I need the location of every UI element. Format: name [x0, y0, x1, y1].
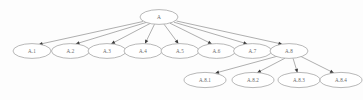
edge-line	[164, 24, 177, 41]
node-label: A.6	[213, 48, 221, 54]
node-label: A.2	[67, 48, 75, 54]
node-A82[interactable]: A.8.2	[232, 72, 274, 87]
edge-line	[146, 24, 154, 41]
diagram-canvas: AA.1A.2A.3A.4A.5A.6A.7A.8A.8.1A.8.2A.8.3…	[0, 0, 363, 100]
node-label: A.8.2	[247, 77, 259, 83]
edge-A8-to-A83	[293, 58, 298, 73]
edge-A-to-A5	[164, 24, 179, 44]
edge-A-to-A3	[111, 24, 150, 45]
edge-A-to-A8	[177, 21, 283, 45]
node-A7[interactable]: A.7	[234, 44, 272, 59]
edge-line	[177, 21, 280, 44]
edge-line	[42, 22, 143, 44]
node-label: A.4	[139, 48, 147, 54]
edge-A8-to-A84	[300, 56, 334, 73]
node-A81[interactable]: A.8.1	[184, 72, 226, 87]
node-label: A.8.3	[293, 77, 305, 83]
node-A3[interactable]: A.3	[88, 44, 126, 59]
node-A83[interactable]: A.8.3	[278, 72, 320, 87]
nodes-layer: AA.1A.2A.3A.4A.5A.6A.7A.8A.8.1A.8.2A.8.3…	[13, 10, 362, 88]
edge-A-to-A1	[39, 22, 144, 46]
node-label: A.5	[176, 48, 184, 54]
node-label: A.8.4	[335, 77, 347, 83]
node-A8[interactable]: A.8	[270, 44, 308, 59]
edge-A-to-A2	[76, 23, 147, 45]
edge-line	[79, 23, 146, 44]
node-label: A.3	[103, 48, 111, 54]
node-A2[interactable]: A.2	[52, 44, 90, 59]
edge-line	[174, 22, 244, 43]
node-A84[interactable]: A.8.4	[320, 72, 362, 87]
edge-A-to-A7	[174, 22, 248, 44]
arrow-head-icon	[175, 40, 179, 44]
edge-A8-to-A81	[215, 56, 278, 74]
node-label: A.8.1	[199, 77, 211, 83]
edge-line	[293, 58, 297, 70]
node-label: A.7	[249, 48, 257, 54]
node-A1[interactable]: A.1	[13, 44, 51, 59]
edge-line	[114, 24, 150, 43]
node-A5[interactable]: A.5	[161, 44, 199, 59]
node-label: A.1	[28, 48, 36, 54]
node-A[interactable]: A	[140, 10, 178, 25]
edge-line	[300, 56, 331, 72]
node-A4[interactable]: A.4	[124, 44, 162, 59]
node-label: A.8	[285, 48, 293, 54]
tree-diagram: AA.1A.2A.3A.4A.5A.6A.7A.8A.8.1A.8.2A.8.3…	[0, 0, 363, 100]
edge-A-to-A4	[145, 24, 155, 44]
node-label: A	[157, 14, 161, 20]
node-A6[interactable]: A.6	[198, 44, 236, 59]
